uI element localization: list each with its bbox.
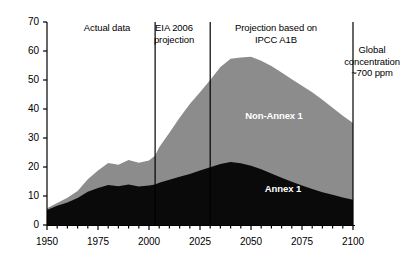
y-tick-label: 40 (15, 103, 39, 114)
y-tick-label: 70 (15, 16, 39, 27)
x-tick-label: 2000 (129, 236, 169, 247)
x-tick-label: 2075 (282, 236, 322, 247)
annotation-ipcc-projection: Projection based on IPCC A1B (206, 22, 346, 45)
y-tick-label: 50 (15, 74, 39, 85)
annotation-actual-data: Actual data (57, 22, 157, 34)
x-tick-label: 2100 (333, 236, 373, 247)
x-tick-label: 2050 (231, 236, 271, 247)
x-tick-label: 1950 (27, 236, 67, 247)
annotation-global-concentration: Global concentration ~700 ppm (336, 44, 408, 79)
series-label-annex-1: Annex 1 (246, 183, 320, 195)
stacked-areas (47, 57, 353, 225)
y-tick-label: 60 (15, 45, 39, 56)
annotation-eia-projection: EIA 2006 projection (146, 22, 202, 45)
chart-plot-area (0, 0, 409, 268)
emissions-stacked-area-chart: 010203040506070 195019752000202520502075… (0, 0, 409, 268)
y-tick-label: 10 (15, 190, 39, 201)
series-label-non-annex-1: Non-Annex 1 (228, 110, 320, 122)
y-tick-label: 30 (15, 132, 39, 143)
y-tick-label: 0 (15, 219, 39, 230)
x-tick-label: 1975 (78, 236, 118, 247)
x-tick-label: 2025 (180, 236, 220, 247)
y-tick-label: 20 (15, 161, 39, 172)
